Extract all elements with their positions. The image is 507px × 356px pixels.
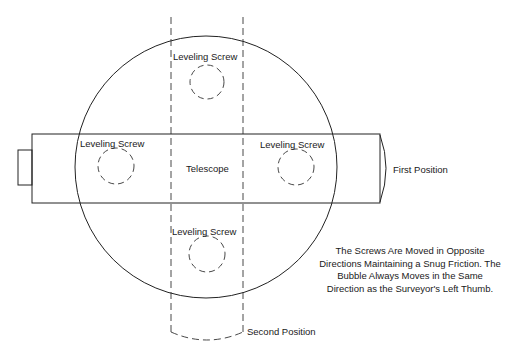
second-position-label: Second Position — [247, 327, 316, 337]
objective-lens — [380, 135, 386, 202]
right-screw-label: Leveling Screw — [260, 140, 324, 150]
instruction-note: The Screws Are Moved in Opposite Directi… — [318, 245, 502, 295]
top-screw-label: Leveling Screw — [173, 52, 237, 62]
top-screw-circle — [190, 65, 224, 99]
right-screw-circle — [278, 149, 314, 185]
leveling-diagram — [0, 0, 507, 356]
bottom-screw-circle — [189, 236, 225, 272]
bottom-screw-label: Leveling Screw — [172, 227, 236, 237]
second-position-telescope-outline — [171, 17, 243, 340]
left-screw-label: Leveling Screw — [80, 139, 144, 149]
left-screw-circle — [98, 148, 134, 184]
eyepiece — [18, 150, 32, 185]
first-position-label: First Position — [393, 165, 448, 175]
telescope-label: Telescope — [186, 164, 229, 174]
